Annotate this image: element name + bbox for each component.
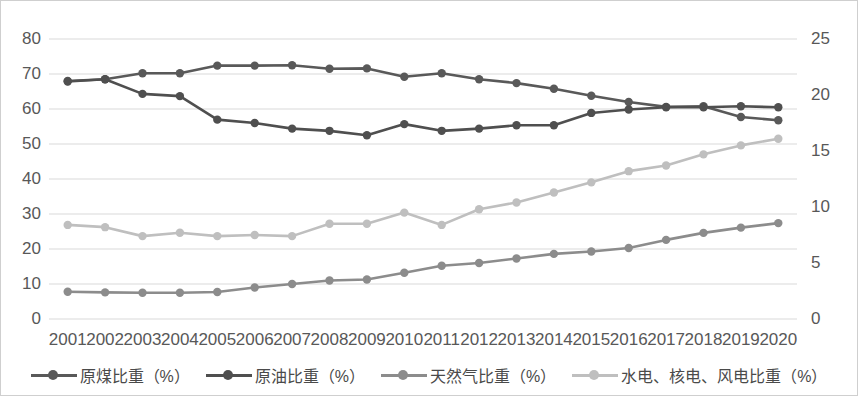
y-axis-right-tick: 5	[811, 254, 851, 271]
y-axis-left-tick: 0	[7, 310, 41, 327]
gridlines	[49, 39, 797, 319]
legend-marker-icon	[381, 368, 427, 382]
legend-label: 原煤比重（%）	[80, 363, 190, 387]
y-axis-left-tick: 80	[7, 30, 41, 47]
legend-label: 原油比重（%）	[255, 363, 365, 387]
y-axis-right-tick: 15	[811, 142, 851, 159]
series-2	[63, 75, 782, 139]
y-axis-right-tick: 25	[811, 30, 851, 47]
y-axis-left-tick: 10	[7, 275, 41, 292]
chart-container: 0102030405060708005101520252001200220032…	[0, 0, 858, 396]
legend-item[interactable]: 水电、核电、风电比重（%）	[572, 363, 827, 387]
legend-marker-icon	[31, 368, 77, 382]
legend-marker-icon	[572, 368, 618, 382]
y-axis-right-tick: 0	[811, 310, 851, 327]
y-axis-right-tick: 10	[811, 198, 851, 215]
series-4	[63, 134, 782, 240]
chart-legend: 原煤比重（%）原油比重（%）天然气比重（%）水电、核电、风电比重（%）	[1, 363, 857, 387]
series-3	[63, 219, 782, 297]
y-axis-left-tick: 70	[7, 65, 41, 82]
legend-marker-icon	[206, 368, 252, 382]
y-axis-left-tick: 20	[7, 240, 41, 257]
x-axis-tick: 2020	[756, 331, 800, 348]
y-axis-left-tick: 40	[7, 170, 41, 187]
legend-item[interactable]: 原煤比重（%）	[31, 363, 190, 387]
y-axis-left-tick: 50	[7, 135, 41, 152]
legend-item[interactable]: 天然气比重（%）	[381, 363, 556, 387]
legend-label: 天然气比重（%）	[430, 363, 556, 387]
y-axis-left-tick: 60	[7, 100, 41, 117]
legend-label: 水电、核电、风电比重（%）	[621, 363, 827, 387]
legend-item[interactable]: 原油比重（%）	[206, 363, 365, 387]
y-axis-right-tick: 20	[811, 86, 851, 103]
series-1	[63, 61, 782, 124]
y-axis-left-tick: 30	[7, 205, 41, 222]
